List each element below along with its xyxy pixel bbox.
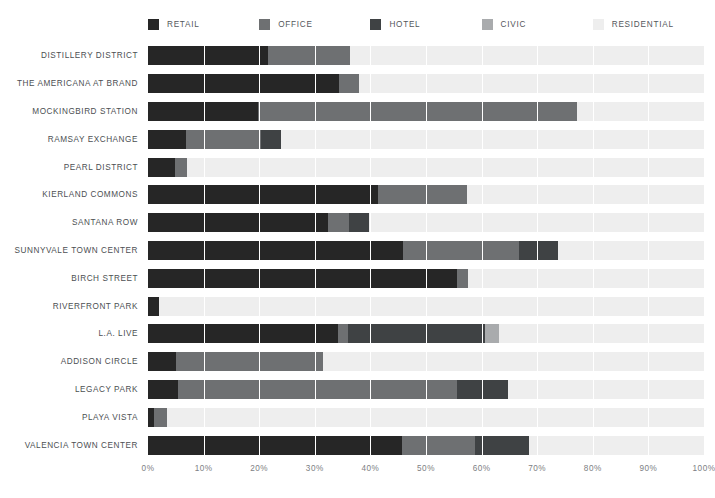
bar-segment-retail[interactable] [148,352,176,371]
y-axis-labels: DISTILLERY DISTRICTTHE AMERICANA AT BRAN… [0,42,138,459]
legend-label: RETAIL [167,19,200,30]
bar-segment-retail[interactable] [148,324,338,343]
bar-track [148,130,704,149]
bar-row[interactable] [148,269,704,288]
bar-segment-office[interactable] [154,408,167,427]
bar-segment-hotel[interactable] [475,436,528,455]
bar-segment-residential[interactable] [467,185,704,204]
bar-track [148,269,704,288]
bar-row[interactable] [148,185,704,204]
bar-segment-residential[interactable] [159,297,704,316]
bar-segment-hotel[interactable] [519,241,557,260]
bar-segment-office[interactable] [178,380,457,399]
legend-swatch-icon [482,19,493,30]
bar-track [148,380,704,399]
x-axis-labels: 0%10%20%30%40%50%60%70%80%90%100% [148,464,704,478]
bar-segment-office[interactable] [176,352,323,371]
bar-segment-office[interactable] [186,130,261,149]
bar-row[interactable] [148,324,704,343]
bar-row[interactable] [148,436,704,455]
bar-segment-office[interactable] [402,436,476,455]
bar-segment-retail[interactable] [148,185,378,204]
bar-segment-office[interactable] [378,185,466,204]
y-axis-tick-label: DISTILLERY DISTRICT [0,46,138,65]
bar-segment-residential[interactable] [508,380,704,399]
bar-segment-residential[interactable] [369,213,704,232]
bar-row[interactable] [148,408,704,427]
bar-segment-hotel[interactable] [261,130,281,149]
x-axis-tick-label: 100% [693,464,715,473]
bar-segment-civic[interactable] [485,324,498,343]
bar-row[interactable] [148,130,704,149]
bar-rows [148,42,704,459]
bar-segment-retail[interactable] [148,436,402,455]
bar-segment-office[interactable] [339,74,358,93]
x-axis-tick-label: 10% [195,464,213,473]
bar-segment-retail[interactable] [148,158,175,177]
bar-segment-residential[interactable] [281,130,704,149]
bar-segment-residential[interactable] [350,46,704,65]
bar-segment-retail[interactable] [148,130,186,149]
x-axis-tick-label: 50% [417,464,435,473]
bar-track [148,408,704,427]
x-axis-tick-label: 80% [584,464,602,473]
legend-swatch-icon [370,19,381,30]
legend-item-residential[interactable]: RESIDENTIAL [593,17,704,31]
legend-item-civic[interactable]: CIVIC [482,17,593,31]
bar-segment-hotel[interactable] [348,324,485,343]
bar-segment-residential[interactable] [558,241,704,260]
y-axis-tick-label: THE AMERICANA AT BRAND [0,74,138,93]
x-axis-tick-label: 40% [361,464,379,473]
bar-segment-hotel[interactable] [457,380,509,399]
legend-item-office[interactable]: OFFICE [259,17,370,31]
y-axis-tick-label: LEGACY PARK [0,380,138,399]
bar-row[interactable] [148,102,704,121]
legend-item-hotel[interactable]: HOTEL [370,17,481,31]
bar-segment-residential[interactable] [167,408,704,427]
bar-row[interactable] [148,158,704,177]
bar-segment-retail[interactable] [148,269,457,288]
x-axis-tick-label: 70% [528,464,546,473]
y-axis-tick-label: BIRCH STREET [0,269,138,288]
bar-segment-residential[interactable] [529,436,704,455]
bar-segment-office[interactable] [268,46,350,65]
y-axis-tick-label: RAMSAY EXCHANGE [0,130,138,149]
legend-item-retail[interactable]: RETAIL [148,17,259,31]
bar-row[interactable] [148,380,704,399]
bar-segment-residential[interactable] [359,74,704,93]
bar-segment-retail[interactable] [148,241,403,260]
bar-segment-residential[interactable] [187,158,704,177]
chart-legend: RETAILOFFICEHOTELCIVICRESIDENTIAL [148,17,704,31]
bar-segment-retail[interactable] [148,46,268,65]
bar-track [148,352,704,371]
bar-segment-office[interactable] [328,213,350,232]
legend-label: HOTEL [389,19,420,30]
bar-row[interactable] [148,213,704,232]
bar-segment-residential[interactable] [499,324,704,343]
bar-segment-office[interactable] [258,102,577,121]
x-axis-tick-label: 20% [250,464,268,473]
bar-segment-office[interactable] [457,269,469,288]
bar-segment-office[interactable] [403,241,520,260]
bar-track [148,102,704,121]
bar-row[interactable] [148,74,704,93]
bar-segment-retail[interactable] [148,213,328,232]
bar-segment-residential[interactable] [577,102,704,121]
y-axis-tick-label: KIERLAND COMMONS [0,185,138,204]
bar-segment-retail[interactable] [148,380,178,399]
bar-row[interactable] [148,297,704,316]
bar-track [148,74,704,93]
bar-segment-hotel[interactable] [349,213,369,232]
bar-row[interactable] [148,46,704,65]
bar-row[interactable] [148,241,704,260]
bar-segment-retail[interactable] [148,297,159,316]
bar-row[interactable] [148,352,704,371]
bar-segment-office[interactable] [175,158,187,177]
bar-segment-retail[interactable] [148,102,258,121]
bar-segment-residential[interactable] [323,352,704,371]
bar-segment-office[interactable] [338,324,349,343]
bar-segment-residential[interactable] [468,269,704,288]
y-axis-tick-label: PEARL DISTRICT [0,158,138,177]
bar-segment-retail[interactable] [148,74,339,93]
legend-label: RESIDENTIAL [612,19,674,30]
